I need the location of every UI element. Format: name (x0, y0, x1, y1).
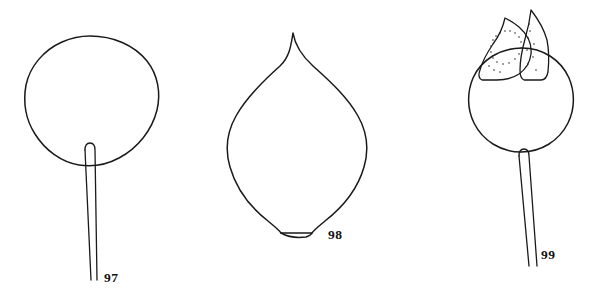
fig99-bract-left (479, 18, 531, 80)
fig97-blade-outline (25, 36, 159, 166)
figure-label-97: 97 (104, 270, 118, 286)
fig97-petiole-left-edge (85, 150, 91, 280)
figure-97-group (25, 36, 159, 280)
plate-artwork (0, 0, 604, 295)
figure-98-group (227, 33, 366, 237)
fig99-fruit-outline (469, 48, 574, 152)
fig98-blade-outline (227, 33, 366, 233)
fig97-petiole (85, 143, 97, 280)
illustration-plate: 97 98 99 (0, 0, 604, 295)
figure-99-group (469, 10, 574, 266)
fig99-bract-left-stipple (488, 30, 522, 73)
figure-label-98: 98 (328, 227, 342, 243)
figure-label-99: 99 (541, 247, 555, 263)
fig99-stalk-left-edge (519, 156, 529, 266)
